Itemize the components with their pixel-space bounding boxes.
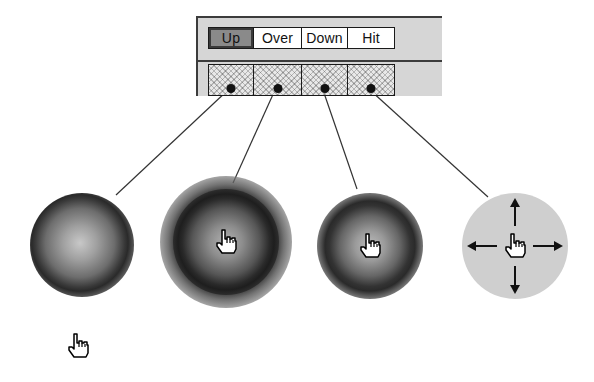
keyframes-row (208, 64, 395, 96)
keyframe-down[interactable] (302, 64, 348, 96)
connector-hit (370, 90, 488, 197)
button-down-state (317, 193, 423, 299)
timeline-panel: Up Over Down Hit (196, 16, 442, 96)
button-up-state (30, 193, 134, 297)
hand-pointer-icon (358, 233, 382, 259)
panel-divider (198, 60, 442, 62)
hand-pointer-icon (66, 333, 90, 359)
keyframe-dot-icon (320, 84, 329, 93)
connector-down (323, 90, 357, 189)
frame-labels-row: Up Over Down Hit (208, 27, 395, 49)
keyframe-dot-icon (227, 84, 236, 93)
button-states-diagram: Up Over Down Hit (0, 0, 594, 382)
keyframe-dot-icon (367, 84, 376, 93)
button-over-state (173, 189, 279, 295)
hand-pointer-icon (503, 233, 527, 259)
keyframe-over[interactable] (254, 64, 302, 96)
keyframe-hit[interactable] (348, 64, 395, 96)
button-hit-area (462, 193, 568, 299)
frame-label-down[interactable]: Down (302, 27, 348, 49)
frame-label-over[interactable]: Over (254, 27, 302, 49)
frame-label-up[interactable]: Up (208, 27, 254, 49)
keyframe-dot-icon (273, 84, 282, 93)
frame-label-hit[interactable]: Hit (348, 27, 395, 49)
hand-pointer-icon (214, 229, 238, 255)
keyframe-up[interactable] (208, 64, 254, 96)
connector-over (233, 90, 275, 183)
